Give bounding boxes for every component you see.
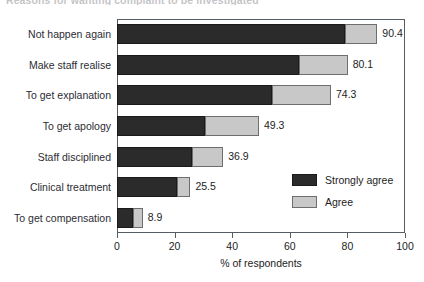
- x-axis-tick-label: 80: [327, 240, 367, 252]
- x-axis-tick: [347, 233, 348, 238]
- category-label: Clinical treatment: [0, 181, 111, 193]
- chart-title: Reasons for wanting complaint to be inve…: [6, 0, 418, 5]
- bar-segment-agree: [177, 177, 191, 197]
- x-axis-tick-label: 0: [97, 240, 137, 252]
- category-label: Not happen again: [0, 28, 111, 40]
- bar-value-label: 74.3: [336, 88, 356, 100]
- x-axis-tick: [290, 233, 291, 238]
- legend-item: Strongly agree: [292, 172, 402, 190]
- bar-segment-agree: [192, 147, 223, 167]
- bar-value-label: 25.5: [195, 180, 215, 192]
- category-label: To get explanation: [0, 89, 111, 101]
- bar-segment-agree: [345, 24, 377, 44]
- bar-segment-strongly-agree: [117, 208, 133, 228]
- bar-value-label: 49.3: [264, 119, 284, 131]
- bar-group: 49.3: [117, 116, 405, 136]
- bar-segment-strongly-agree: [117, 24, 345, 44]
- x-axis-tick: [117, 233, 118, 238]
- bar-group: 90.4: [117, 24, 405, 44]
- category-label: To get apology: [0, 120, 111, 132]
- bar-group: 80.1: [117, 55, 405, 75]
- bar-group: 74.3: [117, 85, 405, 105]
- bar-value-label: 36.9: [228, 150, 248, 162]
- bar-value-label: 90.4: [382, 27, 402, 39]
- x-axis-tick-label: 100: [385, 240, 424, 252]
- bar-segment-agree: [272, 85, 331, 105]
- x-axis-tick-label: 40: [212, 240, 252, 252]
- category-label: To get compensation: [0, 212, 111, 224]
- bar-value-label: 80.1: [353, 58, 373, 70]
- legend-swatch-agree: [292, 196, 317, 208]
- x-axis-tick-label: 60: [270, 240, 310, 252]
- category-label: Make staff realise: [0, 59, 111, 71]
- x-axis-title: % of respondents: [117, 257, 405, 269]
- chart-legend: Strongly agreeAgree: [292, 172, 402, 216]
- bar-segment-strongly-agree: [117, 177, 177, 197]
- bar-segment-agree: [299, 55, 348, 75]
- legend-label: Strongly agree: [325, 172, 393, 188]
- bar-segment-strongly-agree: [117, 55, 299, 75]
- x-axis-tick-label: 20: [155, 240, 195, 252]
- bar-segment-strongly-agree: [117, 147, 192, 167]
- legend-label: Agree: [325, 194, 353, 210]
- category-label: Staff disciplined: [0, 151, 111, 163]
- bar-segment-agree: [205, 116, 259, 136]
- bar-segment-agree: [133, 208, 143, 228]
- x-axis-tick: [405, 233, 406, 238]
- chart-figure: Reasons for wanting complaint to be inve…: [0, 0, 424, 282]
- bar-group: 36.9: [117, 147, 405, 167]
- bar-value-label: 8.9: [148, 211, 163, 223]
- bar-segment-strongly-agree: [117, 85, 272, 105]
- legend-swatch-strong: [292, 174, 317, 186]
- x-axis-tick: [232, 233, 233, 238]
- legend-item: Agree: [292, 194, 402, 212]
- bar-segment-strongly-agree: [117, 116, 205, 136]
- x-axis-tick: [175, 233, 176, 238]
